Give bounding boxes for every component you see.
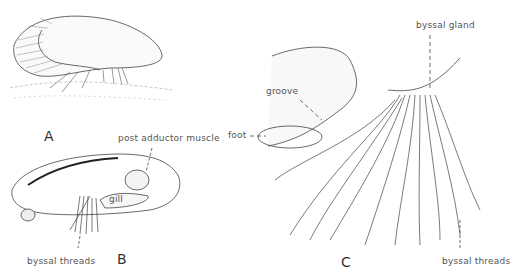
- label-byssal-threads-c: byssal threads: [442, 256, 510, 266]
- figure-drawing: [0, 0, 525, 274]
- panel-c-foot: [250, 35, 480, 248]
- label-groove: groove: [266, 86, 298, 96]
- label-byssal-threads-b: byssal threads: [27, 256, 95, 266]
- panel-a-shell: [10, 16, 172, 100]
- label-post-adductor: post adductor muscle: [118, 133, 220, 143]
- panel-b-interior: [12, 148, 180, 248]
- panel-label-c: C: [341, 254, 351, 270]
- label-byssal-gland: byssal gland: [416, 20, 475, 30]
- label-foot: foot: [228, 130, 247, 140]
- panel-label-a: A: [44, 128, 54, 144]
- panel-label-b: B: [117, 251, 127, 267]
- label-gill: gill: [109, 194, 123, 204]
